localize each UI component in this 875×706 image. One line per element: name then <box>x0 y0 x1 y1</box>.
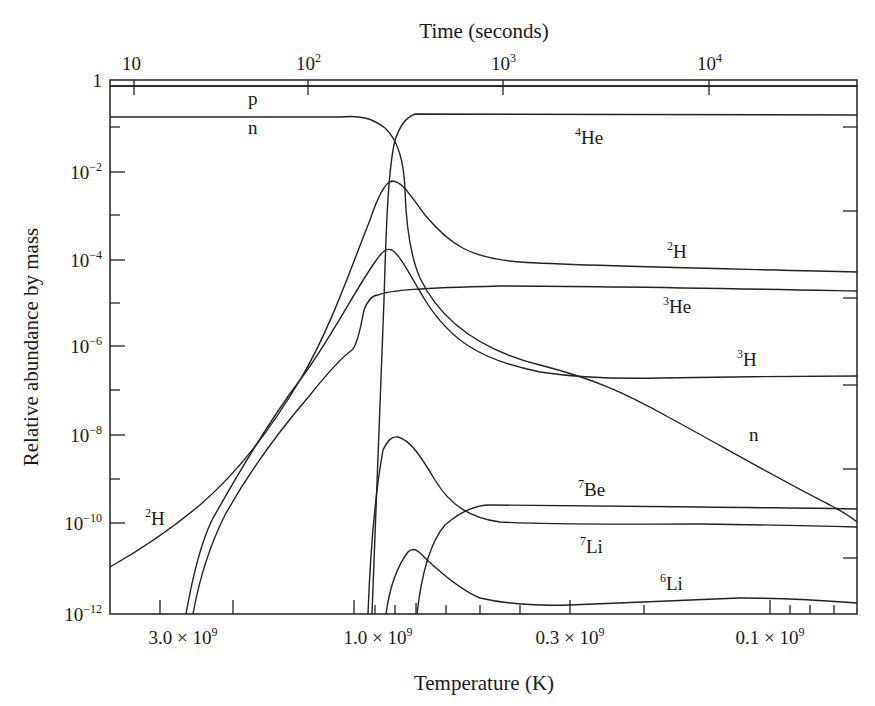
top-axis-labels: 10 102 103 104 <box>122 51 722 74</box>
left-axis-title: Relative abundance by mass <box>19 228 43 467</box>
label-3h: 3H <box>737 347 757 370</box>
svg-text:10−10: 10−10 <box>64 511 102 534</box>
top-axis-title: Time (seconds) <box>419 19 548 43</box>
label-3he: 3He <box>663 294 691 317</box>
curve-n <box>110 116 857 522</box>
curve-7be <box>417 505 857 614</box>
svg-text:1.0 × 109: 1.0 × 109 <box>344 625 413 648</box>
svg-text:10−4: 10−4 <box>70 248 102 271</box>
svg-text:1: 1 <box>93 70 103 91</box>
svg-text:10−6: 10−6 <box>70 334 102 357</box>
curve-3he <box>193 286 857 614</box>
label-p: p <box>248 88 258 109</box>
svg-text:0.3 × 109: 0.3 × 109 <box>536 625 605 648</box>
curve-6li <box>386 550 857 614</box>
plot-frame <box>110 80 857 614</box>
nucleosynthesis-chart: Time (seconds) Temperature (K) Relative … <box>0 0 875 706</box>
label-7be: 7Be <box>578 477 605 500</box>
bottom-axis-ticks <box>160 600 834 614</box>
label-2h-right: 2H <box>667 239 687 262</box>
curve-4he <box>372 114 857 614</box>
svg-text:3.0 × 109: 3.0 × 109 <box>149 625 218 648</box>
svg-text:10−12: 10−12 <box>64 602 102 625</box>
bottom-axis-title: Temperature (K) <box>414 671 554 695</box>
svg-text:10−2: 10−2 <box>70 160 102 183</box>
svg-text:104: 104 <box>697 51 722 74</box>
curve-7li <box>368 437 857 614</box>
svg-text:102: 102 <box>296 51 321 74</box>
top-axis-ticks <box>134 80 709 95</box>
svg-text:10: 10 <box>122 53 141 74</box>
left-axis-ticks <box>110 127 125 523</box>
label-n-top: n <box>248 117 258 138</box>
label-4he: 4He <box>575 125 603 148</box>
y-axis-labels: 1 10−2 10−4 10−6 10−8 10−10 10−12 <box>64 70 102 625</box>
label-n-right: n <box>749 424 759 445</box>
curve-2h <box>110 181 857 567</box>
svg-text:0.1 × 109: 0.1 × 109 <box>736 625 805 648</box>
curve-labels: p n 4He 2H 3He 3H n 7Be 7Li 6Li 2H <box>145 88 759 594</box>
right-axis-ticks <box>843 127 857 558</box>
label-6li: 6Li <box>660 571 683 594</box>
svg-text:103: 103 <box>491 51 516 74</box>
label-7li: 7Li <box>580 534 603 557</box>
svg-text:10−8: 10−8 <box>70 423 102 446</box>
bottom-axis-labels: 3.0 × 109 1.0 × 109 0.3 × 109 0.1 × 109 <box>149 625 805 648</box>
label-2h-left: 2H <box>145 506 165 529</box>
